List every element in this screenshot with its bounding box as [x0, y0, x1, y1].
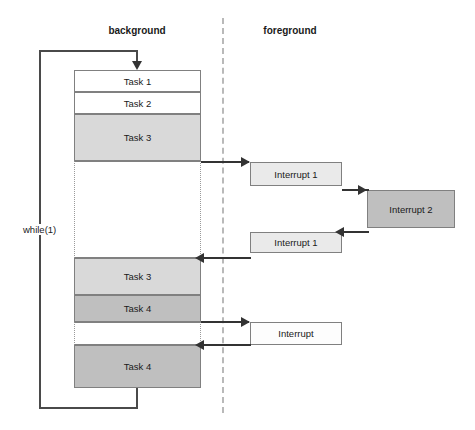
arrow-interrupt1-to-task3-line — [203, 257, 251, 259]
background-block-task-3-first: Task 3 — [74, 114, 201, 161]
arrow-interrupt1-to-task3-head — [195, 253, 204, 263]
background-foreground-divider — [222, 18, 224, 413]
arrow-task3-to-interrupt1-head — [241, 157, 250, 167]
loop-top-segment — [39, 50, 138, 52]
background-block-task-1: Task 1 — [74, 70, 201, 92]
background-idle-gap-first — [74, 161, 201, 258]
loop-bottom-segment — [39, 407, 138, 409]
arrow-interrupt2-to-interrupt1-line — [343, 231, 369, 233]
foreground-block-interrupt-1-enter: Interrupt 1 — [250, 162, 342, 186]
background-block-task-2: Task 2 — [74, 92, 201, 114]
background-block-task-3-second: Task 3 — [74, 258, 201, 295]
loop-return-segment — [136, 388, 138, 408]
foreground-block-interrupt-2: Interrupt 2 — [367, 190, 455, 228]
arrow-interrupt2-to-interrupt1-head — [335, 227, 344, 237]
background-idle-gap-second — [74, 322, 201, 345]
background-block-task-4-second: Task 4 — [74, 345, 201, 388]
arrow-interrupt1-to-interrupt2-head — [358, 185, 367, 195]
arrow-interrupt-to-task4-head — [195, 340, 204, 350]
while-loop-label: while(1) — [21, 224, 58, 235]
background-foreground-diagram: background foreground while(1) Task 1 Ta… — [0, 0, 475, 430]
loop-entry-arrowhead — [132, 61, 142, 70]
background-block-task-4-first: Task 4 — [74, 295, 201, 322]
foreground-block-interrupt: Interrupt — [250, 322, 342, 345]
foreground-column-label: foreground — [240, 25, 340, 36]
arrow-interrupt-to-task4-line — [203, 344, 251, 346]
foreground-block-interrupt-1-resume: Interrupt 1 — [250, 232, 342, 253]
arrow-task4-to-interrupt-head — [241, 317, 250, 327]
background-column-label: background — [87, 25, 187, 36]
